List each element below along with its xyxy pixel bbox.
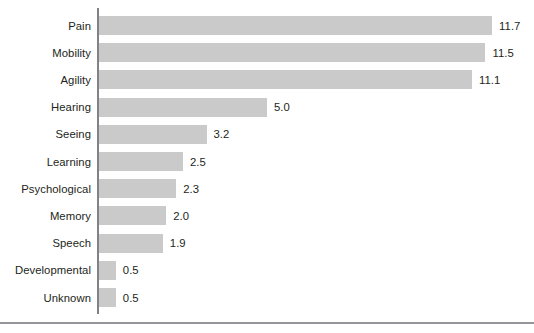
bar-category-label: Learning (0, 155, 91, 168)
bar-rect (99, 234, 163, 253)
bar-category-label: Memory (0, 209, 91, 222)
bar-rect (99, 125, 207, 144)
bar-row: Seeing3.2 (0, 125, 534, 144)
bar-rect (99, 261, 116, 280)
bar-rect (99, 98, 267, 117)
bar-category-label: Developmental (0, 264, 91, 277)
bars-group: Pain11.7Mobility11.5Agility11.1Hearing5.… (0, 8, 534, 314)
bar-value-label: 5.0 (274, 101, 290, 114)
bar-value-label: 11.5 (492, 46, 513, 59)
bar-row: Hearing5.0 (0, 98, 534, 117)
bar-row: Mobility11.5 (0, 43, 534, 62)
bar-category-label: Mobility (0, 46, 91, 59)
bar-value-label: 0.5 (123, 264, 139, 277)
bar-rect (99, 43, 485, 62)
bar-row: Developmental0.5 (0, 261, 534, 280)
bar-row: Speech1.9 (0, 234, 534, 253)
bar-row: Psychological2.3 (0, 179, 534, 198)
bar-value-label: 1.9 (170, 237, 186, 250)
bar-category-label: Agility (0, 73, 91, 86)
bar-value-label: 2.0 (173, 209, 189, 222)
bar-value-label: 11.1 (479, 73, 500, 86)
bar-category-label: Hearing (0, 101, 91, 114)
bottom-divider-rule (0, 322, 534, 324)
plot-area: Pain11.7Mobility11.5Agility11.1Hearing5.… (0, 8, 534, 314)
bar-rect (99, 70, 472, 89)
bar-row: Agility11.1 (0, 70, 534, 89)
horizontal-bar-chart: Pain11.7Mobility11.5Agility11.1Hearing5.… (0, 0, 534, 333)
bar-category-label: Psychological (0, 182, 91, 195)
bar-rect (99, 288, 116, 307)
bar-rect (99, 16, 492, 35)
bar-value-label: 2.5 (190, 155, 206, 168)
bar-value-label: 2.3 (183, 182, 199, 195)
bar-row: Memory2.0 (0, 206, 534, 225)
bar-value-label: 11.7 (499, 19, 520, 32)
bar-row: Unknown0.5 (0, 288, 534, 307)
bar-rect (99, 179, 176, 198)
bar-category-label: Unknown (0, 291, 91, 304)
bar-category-label: Pain (0, 19, 91, 32)
bar-category-label: Speech (0, 237, 91, 250)
bar-row: Learning2.5 (0, 152, 534, 171)
bar-value-label: 3.2 (214, 128, 230, 141)
bar-row: Pain11.7 (0, 16, 534, 35)
bar-rect (99, 152, 183, 171)
bar-category-label: Seeing (0, 128, 91, 141)
bar-rect (99, 206, 166, 225)
bar-value-label: 0.5 (123, 291, 139, 304)
